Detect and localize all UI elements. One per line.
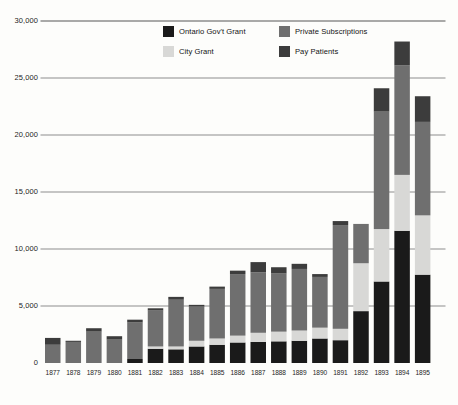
chart-plot-area — [0, 0, 458, 405]
legend-swatch-icon-ontario-govt-grant — [163, 26, 174, 37]
bar-segment — [374, 88, 390, 111]
bar-segment — [230, 274, 246, 336]
legend-item-pay-patients: Pay Patients — [279, 46, 338, 57]
bar-segment — [271, 274, 287, 332]
bar-segment — [168, 349, 184, 363]
bar-segment — [230, 342, 246, 363]
bar-segment — [415, 275, 431, 363]
x-axis-tick-label: 1893 — [371, 370, 393, 377]
bar-segment — [209, 289, 225, 339]
x-axis-tick-label: 1888 — [268, 370, 290, 377]
legend-swatch-icon-pay-patients — [279, 46, 290, 57]
x-axis-tick-label: 1892 — [350, 370, 372, 377]
x-axis-tick-label: 1887 — [247, 370, 269, 377]
bar-segment — [292, 264, 308, 269]
y-axis-tick-label: 25,000 — [2, 74, 38, 82]
legend-item-city-grant: City Grant — [163, 46, 214, 57]
legend-label-private-subscriptions: Private Subscriptions — [295, 28, 367, 36]
x-axis-tick-label: 1883 — [165, 370, 187, 377]
x-axis-tick-label: 1881 — [124, 370, 146, 377]
bar-segment — [168, 346, 184, 349]
bar-segment — [251, 272, 267, 332]
bar-segment — [168, 300, 184, 347]
x-axis-tick-label: 1889 — [288, 370, 310, 377]
x-axis-tick-label: 1884 — [186, 370, 208, 377]
bar-segment — [66, 341, 82, 342]
bar-segment — [271, 332, 287, 342]
legend-label-city-grant: City Grant — [179, 48, 214, 56]
bar-segment — [148, 349, 164, 363]
x-axis-tick-label: 1895 — [412, 370, 434, 377]
bar-segment — [312, 328, 328, 339]
bar-segment — [209, 345, 225, 363]
bar-segment — [374, 281, 390, 363]
bar-segment — [148, 346, 164, 348]
bar-segment — [45, 345, 61, 363]
bar-segment — [415, 215, 431, 274]
bar-segment — [394, 175, 410, 231]
bar-segment — [86, 332, 102, 363]
bar-segment — [333, 329, 349, 340]
x-axis-tick-label: 1880 — [103, 370, 125, 377]
y-axis-tick-label: 10,000 — [2, 245, 38, 253]
bar-segment — [251, 342, 267, 363]
legend-item-ontario-govt-grant: Ontario Gov't Grant — [163, 26, 246, 37]
y-axis-tick-label: 0 — [2, 359, 38, 367]
bar-segment — [353, 311, 369, 363]
bar-segment — [209, 338, 225, 344]
bar-segment — [333, 340, 349, 363]
bar-segment — [353, 263, 369, 311]
legend-label-ontario-govt-grant: Ontario Gov't Grant — [179, 28, 246, 36]
bar-segment — [374, 112, 390, 229]
x-axis-tick-label: 1877 — [42, 370, 64, 377]
bar-segment — [394, 231, 410, 363]
bar-segment — [127, 320, 143, 323]
bar-segment — [209, 287, 225, 289]
x-axis-tick-label: 1885 — [206, 370, 228, 377]
bar-segment — [45, 338, 61, 345]
bar-segment — [230, 271, 246, 274]
chart-legend: Ontario Gov't Grant City Grant Private S… — [163, 26, 393, 60]
y-axis-tick-label: 30,000 — [2, 17, 38, 25]
x-axis-tick-label: 1879 — [83, 370, 105, 377]
bar-segment — [251, 333, 267, 342]
bars-group — [45, 42, 430, 363]
bar-segment — [353, 224, 369, 263]
legend-swatch-icon-private-subscriptions — [279, 26, 290, 37]
bar-segment — [374, 229, 390, 281]
bar-segment — [189, 341, 205, 347]
bar-segment — [333, 221, 349, 225]
bar-segment — [415, 122, 431, 215]
bar-segment — [292, 331, 308, 341]
bar-segment — [107, 336, 123, 339]
bar-segment — [230, 336, 246, 343]
x-axis-tick-label: 1891 — [329, 370, 351, 377]
bar-segment — [333, 225, 349, 329]
bar-segment — [292, 341, 308, 363]
x-axis-tick-label: 1882 — [145, 370, 167, 377]
y-axis-tick-label: 15,000 — [2, 188, 38, 196]
bar-segment — [415, 96, 431, 122]
bar-segment — [292, 269, 308, 331]
bar-segment — [312, 338, 328, 363]
bar-segment — [86, 328, 102, 331]
x-axis-tick-label: 1894 — [391, 370, 413, 377]
bar-segment — [312, 274, 328, 277]
legend-item-private-subscriptions: Private Subscriptions — [279, 26, 367, 37]
bar-segment — [168, 297, 184, 300]
y-axis-tick-label: 20,000 — [2, 131, 38, 139]
bar-segment — [271, 341, 287, 363]
bar-segment — [189, 307, 205, 341]
bar-segment — [189, 305, 205, 307]
legend-swatch-icon-city-grant — [163, 46, 174, 57]
chart-container: 05,00010,00015,00020,00025,00030,000 187… — [0, 0, 458, 405]
x-axis-tick-label: 1886 — [227, 370, 249, 377]
bar-segment — [394, 42, 410, 66]
bar-segment — [66, 342, 82, 363]
x-axis-tick-label: 1878 — [62, 370, 84, 377]
bar-segment — [394, 65, 410, 174]
x-axis-tick-label: 1890 — [309, 370, 331, 377]
bar-segment — [127, 359, 143, 363]
bar-segment — [251, 262, 267, 272]
bar-segment — [271, 267, 287, 273]
